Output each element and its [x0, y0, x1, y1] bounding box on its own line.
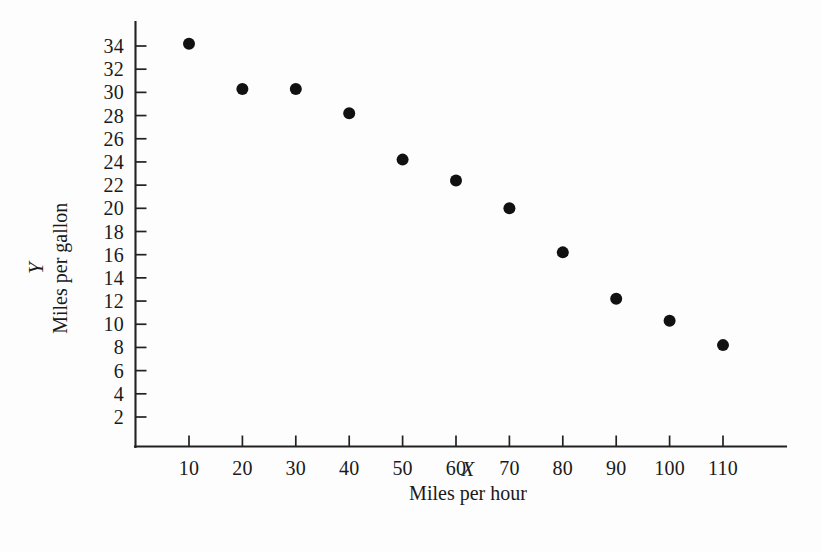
x-tick-label: 10: [179, 458, 199, 478]
data-point: [503, 202, 515, 214]
x-tick-label: 20: [232, 458, 252, 478]
data-point: [290, 83, 302, 95]
y-tick-label: 32: [60, 59, 124, 79]
x-axis-variable-symbol: X: [462, 457, 475, 481]
y-tick-marks: [136, 46, 147, 417]
x-tick-label: 40: [339, 458, 359, 478]
x-axis-description: Miles per hour: [409, 482, 527, 504]
data-point: [557, 246, 569, 258]
y-tick-label: 28: [60, 106, 124, 126]
x-tick-label: 110: [708, 458, 738, 478]
data-points-group: [183, 38, 729, 351]
data-point: [183, 38, 195, 50]
y-tick-label: 34: [60, 36, 124, 56]
x-tick-label: 90: [606, 458, 626, 478]
x-tick-label: 100: [654, 458, 685, 478]
x-axis-title: X Miles per hour: [409, 458, 527, 505]
data-point: [717, 339, 729, 351]
data-point: [664, 315, 676, 327]
x-tick-label: 30: [286, 458, 306, 478]
data-point: [236, 83, 248, 95]
y-axis-variable-symbol: Y: [25, 168, 49, 368]
data-point: [450, 174, 462, 186]
y-tick-label: 4: [60, 384, 124, 404]
y-axis-description: Miles per gallon: [48, 168, 71, 368]
y-tick-label: 26: [60, 129, 124, 149]
y-axis-title: Y Miles per gallon: [25, 168, 72, 368]
data-point: [343, 107, 355, 119]
data-point: [397, 154, 409, 166]
y-tick-label: 30: [60, 82, 124, 102]
y-tick-label: 2: [60, 407, 124, 427]
x-tick-label: 80: [553, 458, 573, 478]
axes-group: [135, 22, 786, 447]
x-tick-marks: [189, 436, 723, 447]
scatter-plot-figure: 246810121416182022242628303234 102030405…: [0, 0, 821, 552]
data-point: [610, 293, 622, 305]
